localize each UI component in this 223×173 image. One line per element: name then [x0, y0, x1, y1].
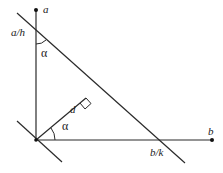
- geometry-figure: [0, 0, 223, 173]
- origin-point: [34, 138, 38, 142]
- label-a: a: [43, 4, 49, 15]
- label-b-over-k: b/k: [150, 147, 163, 158]
- diagram-canvas: a a/h α d α b b/k: [0, 0, 223, 173]
- alpha-arc-top: [36, 40, 46, 44]
- label-b: b: [208, 126, 214, 137]
- spacing-d-line: [36, 98, 86, 140]
- right-angle-marker: [80, 98, 91, 109]
- point-b: [210, 138, 214, 142]
- label-alpha-top: α: [41, 47, 47, 59]
- parallel-plane-line: [17, 121, 62, 162]
- label-alpha-bottom: α: [62, 120, 68, 132]
- alpha-arc-bottom: [51, 128, 55, 140]
- label-a-over-h: a/h: [11, 27, 25, 38]
- label-d: d: [70, 104, 76, 115]
- point-a: [34, 8, 38, 12]
